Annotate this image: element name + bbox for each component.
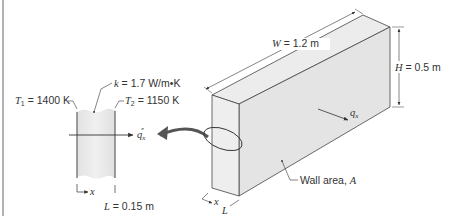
wall-cross-section — [77, 109, 115, 179]
t2-label: T2 = 1150 K — [125, 94, 179, 107]
k-leader — [94, 83, 112, 112]
t2-leader — [115, 101, 124, 108]
heat-flux-label: qx″ — [137, 127, 146, 142]
x-axis-3d — [202, 193, 212, 203]
t1-label: T1 = 1400 K — [15, 94, 70, 107]
x-axis-label-detail: x — [89, 186, 95, 197]
height-label: H = 0.5 m — [394, 61, 441, 73]
wall-area-label: Wall area, A — [300, 174, 357, 186]
x-axis-detail — [77, 184, 88, 192]
l-leader — [230, 200, 239, 206]
callout-arrowhead — [157, 126, 168, 140]
conductivity-label: k = 1.7 W/m•K — [114, 77, 180, 89]
l-label-3d: L — [221, 205, 228, 216]
plane-wall-diagram: qx″ k = 1.7 W/m•K T1 = 1400 K T2 = 1150 … — [0, 0, 450, 216]
width-label: W = 1.2 m — [272, 37, 319, 49]
x-axis-label-3d: x — [213, 196, 219, 207]
thickness-label: L = 0.15 m — [103, 200, 154, 212]
